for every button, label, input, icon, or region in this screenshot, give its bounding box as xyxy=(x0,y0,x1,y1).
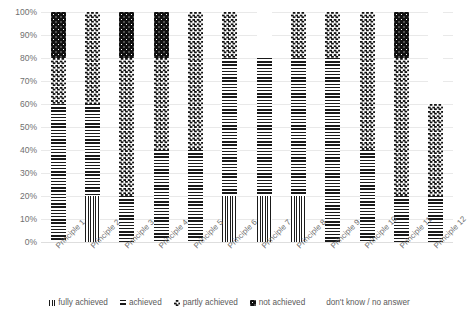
bar-column[interactable] xyxy=(85,12,100,242)
legend-label: achieved xyxy=(129,298,162,308)
legend-item[interactable]: don't know / no answer xyxy=(317,298,410,308)
legend-label: partly achieved xyxy=(183,298,238,308)
legend-item[interactable]: partly achieved xyxy=(174,298,238,308)
gridline xyxy=(41,127,453,128)
y-axis-tick-label: 80% xyxy=(0,54,37,63)
bar-segment[interactable] xyxy=(428,12,443,104)
bar-column[interactable] xyxy=(222,12,237,242)
bar-stack xyxy=(360,12,375,242)
bar-segment[interactable] xyxy=(360,150,375,242)
bar-segment[interactable] xyxy=(222,58,237,196)
bar-segment[interactable] xyxy=(85,104,100,196)
bar-segment[interactable] xyxy=(428,104,443,196)
plot-area xyxy=(41,12,453,242)
y-axis-tick-label: 100% xyxy=(0,8,37,17)
legend-item[interactable]: fully achieved xyxy=(49,298,108,308)
gridline xyxy=(41,81,453,82)
y-axis-tick-label: 60% xyxy=(0,100,37,109)
bar-segment[interactable] xyxy=(291,58,306,196)
bar-segment[interactable] xyxy=(325,58,340,242)
bar-stack xyxy=(51,12,66,242)
y-axis-tick-label: 90% xyxy=(0,31,37,40)
bar-stack xyxy=(291,12,306,242)
y-axis-tick-label: 40% xyxy=(0,146,37,155)
bar-segment[interactable] xyxy=(154,58,169,150)
gridline xyxy=(41,104,453,105)
bar-segment[interactable] xyxy=(85,12,100,104)
legend-label: not achieved xyxy=(259,298,305,308)
bar-column[interactable] xyxy=(119,12,134,242)
gridline xyxy=(41,12,453,13)
gridline xyxy=(41,150,453,151)
bar-stack xyxy=(154,12,169,242)
bar-segment[interactable] xyxy=(51,58,66,104)
bar-segment[interactable] xyxy=(188,150,203,242)
gridline xyxy=(41,173,453,174)
gridline xyxy=(41,196,453,197)
bar-column[interactable] xyxy=(257,12,272,242)
legend-swatch-checkerboard-icon xyxy=(174,300,180,306)
legend-swatch-dark-dotted-icon xyxy=(250,300,256,306)
bar-column[interactable] xyxy=(51,12,66,242)
bar-stack xyxy=(188,12,203,242)
y-axis-tick-label: 70% xyxy=(0,77,37,86)
y-axis-tick-label: 20% xyxy=(0,192,37,201)
bar-segment[interactable] xyxy=(222,12,237,58)
x-axis-labels: Principle 1Principle 2Principle 3Princip… xyxy=(41,244,453,288)
bar-stack xyxy=(85,12,100,242)
bar-stack xyxy=(119,12,134,242)
bar-segment[interactable] xyxy=(119,12,134,58)
bar-stack xyxy=(325,12,340,242)
bar-stack xyxy=(222,12,237,242)
bar-stack xyxy=(394,12,409,242)
bar-segment[interactable] xyxy=(119,58,134,196)
bar-column[interactable] xyxy=(291,12,306,242)
legend-label: don't know / no answer xyxy=(326,298,410,308)
bar-segment[interactable] xyxy=(51,104,66,242)
bar-stack xyxy=(428,12,443,242)
y-axis-tick-label: 50% xyxy=(0,123,37,132)
legend-item[interactable]: not achieved xyxy=(250,298,305,308)
bar-column[interactable] xyxy=(360,12,375,242)
bar-segment[interactable] xyxy=(394,12,409,58)
legend-swatch-light-dotted-icon xyxy=(317,300,323,306)
y-axis-tick-label: 30% xyxy=(0,169,37,178)
y-axis: 0%10%20%30%40%50%60%70%80%90%100% xyxy=(0,12,37,242)
bar-column[interactable] xyxy=(154,12,169,242)
bar-segment[interactable] xyxy=(188,12,203,150)
bar-stack xyxy=(257,12,272,242)
legend-swatch-horizontal-lines-icon xyxy=(120,300,126,306)
legend-swatch-vertical-lines-icon xyxy=(49,300,55,306)
chart-legend: fully achievedachievedpartly achievednot… xyxy=(0,293,459,313)
bar-column[interactable] xyxy=(188,12,203,242)
bar-segment[interactable] xyxy=(257,58,272,196)
bar-segment[interactable] xyxy=(154,12,169,58)
bar-segment[interactable] xyxy=(360,12,375,150)
y-axis-tick-label: 10% xyxy=(0,215,37,224)
gridline xyxy=(41,35,453,36)
bar-segment[interactable] xyxy=(325,12,340,58)
legend-item[interactable]: achieved xyxy=(120,298,162,308)
gridline xyxy=(41,58,453,59)
bar-segment[interactable] xyxy=(291,12,306,58)
bar-segment[interactable] xyxy=(394,58,409,196)
bar-column[interactable] xyxy=(428,12,443,242)
bar-column[interactable] xyxy=(325,12,340,242)
bar-segment[interactable] xyxy=(257,12,272,58)
bar-segment[interactable] xyxy=(154,150,169,242)
bar-segment[interactable] xyxy=(51,12,66,58)
y-axis-tick-label: 0% xyxy=(0,238,37,247)
bar-column[interactable] xyxy=(394,12,409,242)
legend-label: fully achieved xyxy=(58,298,108,308)
